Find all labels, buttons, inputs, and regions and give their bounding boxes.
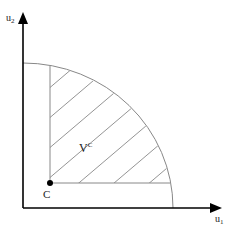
x-axis-arrow-icon (210, 203, 222, 213)
diagram-canvas (0, 0, 233, 233)
region-label-superscript: C (88, 141, 93, 149)
point-c-label-text: C (43, 188, 50, 200)
point-c-dot (47, 180, 53, 186)
hatch-pattern (0, 0, 200, 233)
point-c-label: C (43, 188, 50, 200)
x-axis-label-subscript: 1 (220, 218, 224, 226)
y-axis-label: u2 (6, 12, 15, 25)
region-label: VC (79, 141, 92, 156)
x-axis-label: u1 (215, 213, 224, 226)
y-axis-arrow-icon (18, 12, 28, 24)
frontier-arc (23, 63, 173, 208)
region-label-text: V (79, 141, 88, 155)
y-axis-label-subscript: 2 (11, 17, 15, 25)
